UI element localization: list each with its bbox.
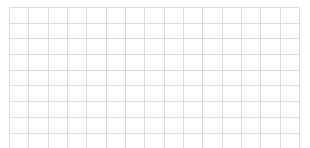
table-cell[interactable]: [164, 8, 183, 24]
table-cell[interactable]: [203, 133, 222, 148]
table-cell[interactable]: [87, 102, 106, 118]
table-cell[interactable]: [48, 117, 67, 133]
table-row[interactable]: [10, 133, 300, 148]
table-cell[interactable]: [125, 55, 144, 71]
table-cell[interactable]: [87, 23, 106, 39]
table-cell[interactable]: [125, 8, 144, 24]
table-cell[interactable]: [280, 55, 299, 71]
table-cell[interactable]: [29, 8, 48, 24]
table-cell[interactable]: [29, 39, 48, 55]
table-cell[interactable]: [29, 117, 48, 133]
table-cell[interactable]: [106, 102, 125, 118]
table-cell[interactable]: [48, 133, 67, 148]
table-cell[interactable]: [203, 117, 222, 133]
table-cell[interactable]: [145, 23, 164, 39]
table-cell[interactable]: [29, 86, 48, 102]
table-cell[interactable]: [145, 55, 164, 71]
table-cell[interactable]: [29, 102, 48, 118]
table-cell[interactable]: [106, 23, 125, 39]
table-cell[interactable]: [203, 55, 222, 71]
table-cell[interactable]: [261, 8, 280, 24]
table-cell[interactable]: [125, 102, 144, 118]
table-cell[interactable]: [10, 23, 29, 39]
table-cell[interactable]: [125, 86, 144, 102]
table-cell[interactable]: [280, 8, 299, 24]
table-row[interactable]: [10, 70, 300, 86]
table-cell[interactable]: [203, 86, 222, 102]
table-cell[interactable]: [164, 86, 183, 102]
table-cell[interactable]: [125, 117, 144, 133]
table-row[interactable]: [10, 23, 300, 39]
table-cell[interactable]: [87, 86, 106, 102]
table-cell[interactable]: [125, 23, 144, 39]
table-cell[interactable]: [280, 102, 299, 118]
table-cell[interactable]: [145, 86, 164, 102]
table-cell[interactable]: [10, 86, 29, 102]
table-row[interactable]: [10, 8, 300, 24]
table-cell[interactable]: [67, 117, 86, 133]
table-cell[interactable]: [145, 39, 164, 55]
table-cell[interactable]: [261, 55, 280, 71]
table-cell[interactable]: [48, 23, 67, 39]
table-row[interactable]: [10, 117, 300, 133]
table-cell[interactable]: [10, 102, 29, 118]
table-cell[interactable]: [10, 133, 29, 148]
table-cell[interactable]: [183, 55, 202, 71]
table-cell[interactable]: [29, 70, 48, 86]
table-cell[interactable]: [48, 86, 67, 102]
table-cell[interactable]: [183, 70, 202, 86]
table-cell[interactable]: [48, 70, 67, 86]
table-cell[interactable]: [67, 23, 86, 39]
table-cell[interactable]: [125, 133, 144, 148]
table-cell[interactable]: [29, 55, 48, 71]
table-cell[interactable]: [164, 55, 183, 71]
table-cell[interactable]: [222, 133, 241, 148]
table-cell[interactable]: [10, 39, 29, 55]
table-cell[interactable]: [203, 8, 222, 24]
table-cell[interactable]: [261, 39, 280, 55]
table-cell[interactable]: [67, 102, 86, 118]
table-cell[interactable]: [87, 39, 106, 55]
table-cell[interactable]: [145, 133, 164, 148]
table-cell[interactable]: [67, 86, 86, 102]
table-cell[interactable]: [183, 39, 202, 55]
table-cell[interactable]: [183, 133, 202, 148]
table-cell[interactable]: [241, 8, 260, 24]
table-cell[interactable]: [48, 39, 67, 55]
table-cell[interactable]: [48, 55, 67, 71]
table-cell[interactable]: [106, 55, 125, 71]
table-cell[interactable]: [183, 117, 202, 133]
table-cell[interactable]: [164, 23, 183, 39]
table-cell[interactable]: [164, 133, 183, 148]
table-cell[interactable]: [164, 39, 183, 55]
table-cell[interactable]: [222, 86, 241, 102]
table-cell[interactable]: [29, 23, 48, 39]
table-cell[interactable]: [222, 23, 241, 39]
table-cell[interactable]: [106, 133, 125, 148]
table-cell[interactable]: [280, 86, 299, 102]
table-cell[interactable]: [164, 117, 183, 133]
table-cell[interactable]: [67, 8, 86, 24]
table-cell[interactable]: [183, 23, 202, 39]
table-cell[interactable]: [164, 102, 183, 118]
table-cell[interactable]: [10, 70, 29, 86]
table-cell[interactable]: [222, 70, 241, 86]
table-cell[interactable]: [106, 86, 125, 102]
table-row[interactable]: [10, 102, 300, 118]
table-cell[interactable]: [261, 23, 280, 39]
table-cell[interactable]: [280, 23, 299, 39]
table-cell[interactable]: [145, 102, 164, 118]
table-cell[interactable]: [261, 86, 280, 102]
empty-grid-table[interactable]: [9, 7, 300, 148]
table-cell[interactable]: [145, 70, 164, 86]
table-cell[interactable]: [10, 8, 29, 24]
table-cell[interactable]: [261, 70, 280, 86]
table-cell[interactable]: [280, 117, 299, 133]
table-cell[interactable]: [67, 70, 86, 86]
table-cell[interactable]: [10, 55, 29, 71]
table-cell[interactable]: [48, 8, 67, 24]
table-cell[interactable]: [203, 70, 222, 86]
table-cell[interactable]: [241, 102, 260, 118]
table-cell[interactable]: [222, 102, 241, 118]
table-cell[interactable]: [145, 8, 164, 24]
